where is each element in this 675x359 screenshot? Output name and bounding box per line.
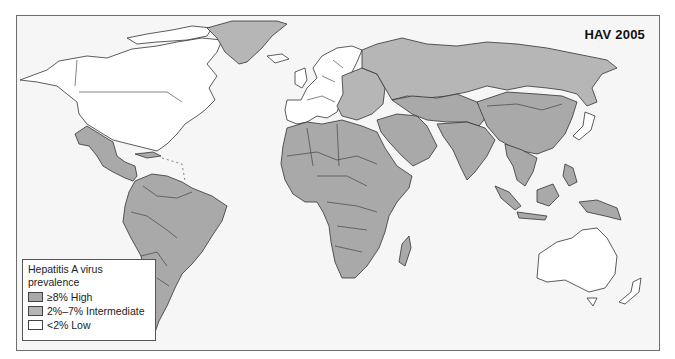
legend: Hepatitis A virus prevalence ≥8% High 2%… [22, 259, 156, 341]
region-south-asia [437, 122, 495, 180]
region-sumatra [495, 186, 521, 210]
region-japan [573, 112, 595, 140]
region-tasmania [587, 298, 597, 306]
map-frame: HAV 2005 Hepatitis A virus prevalence ≥8… [16, 15, 660, 351]
region-russia [362, 38, 617, 106]
region-iceland [267, 54, 289, 63]
legend-item-high: ≥8% High [28, 290, 150, 304]
region-java [517, 212, 547, 220]
legend-title: Hepatitis A virus prevalence [28, 263, 150, 288]
region-caribbean [135, 152, 161, 158]
legend-label-low: <2% Low [47, 319, 91, 332]
map-title: HAV 2005 [584, 27, 645, 42]
region-madagascar [399, 236, 411, 266]
swatch-low-icon [28, 320, 43, 330]
region-new-guinea [579, 200, 621, 220]
region-new-zealand [619, 278, 641, 304]
region-north-america [20, 38, 222, 151]
swatch-intermediate-icon [28, 306, 43, 316]
legend-label-intermediate: 2%–7% Intermediate [47, 305, 144, 318]
legend-title-line1: Hepatitis A virus [28, 263, 150, 276]
region-uk [295, 68, 307, 88]
legend-item-low: <2% Low [28, 318, 150, 332]
legend-label-high: ≥8% High [47, 291, 92, 304]
legend-title-line2: prevalence [28, 276, 150, 289]
swatch-high-icon [28, 292, 43, 302]
region-philippines [563, 164, 577, 186]
region-borneo [537, 184, 559, 206]
region-australia [537, 228, 617, 292]
legend-item-intermediate: 2%–7% Intermediate [28, 304, 150, 318]
